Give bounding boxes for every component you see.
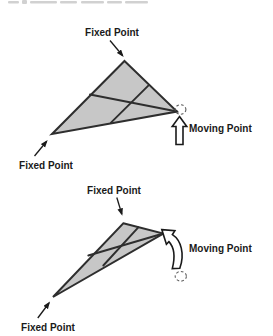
up-block-arrow	[172, 117, 187, 145]
moving-point-label: Moving Point	[189, 123, 252, 134]
curved-block-arrow	[162, 230, 182, 269]
diagram-top: Fixed Point Fixed Point Moving Point	[19, 27, 252, 171]
diagram-bottom: Fixed Point Fixed Point Moving Point	[21, 185, 252, 334]
moving-point-label: Moving Point	[189, 243, 252, 254]
moving-point-old-position-circle	[175, 272, 186, 282]
origami-flap-figure: Fixed Point Fixed Point Moving Point Fix…	[0, 0, 273, 336]
fixed-point-top-label: Fixed Point	[87, 185, 142, 196]
cropped-text-remnant	[8, 0, 148, 4]
figure-canvas: Fixed Point Fixed Point Moving Point Fix…	[0, 0, 273, 336]
fixed-point-bottom-label: Fixed Point	[21, 322, 76, 333]
fixed-point-bottom-label: Fixed Point	[19, 160, 74, 171]
triangle-top	[52, 61, 177, 134]
fixed-point-top-arrow	[117, 198, 122, 215]
moving-point-marker-circle	[175, 105, 186, 115]
fixed-point-bottom-arrow	[35, 142, 47, 157]
fixed-point-top-label: Fixed Point	[85, 27, 140, 38]
fixed-point-top-arrow	[110, 41, 123, 56]
fixed-point-bottom-arrow	[38, 303, 49, 318]
